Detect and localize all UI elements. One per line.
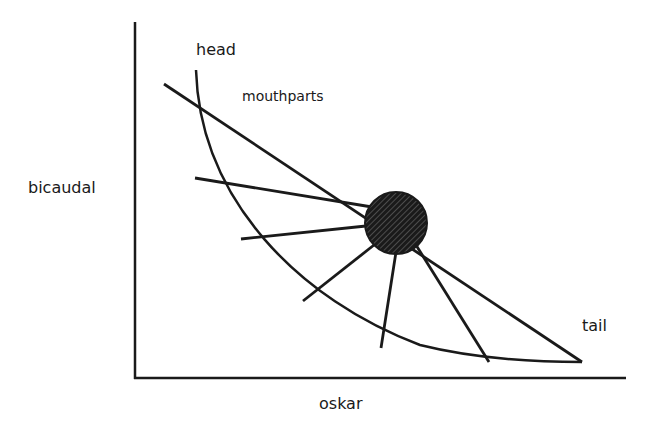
center-node bbox=[365, 192, 427, 254]
mouthparts-label: mouthparts bbox=[242, 89, 323, 103]
head-label: head bbox=[196, 42, 236, 58]
spoke-line-5 bbox=[416, 245, 489, 362]
x-axis-label: oskar bbox=[319, 396, 363, 412]
diagram-canvas bbox=[0, 0, 662, 436]
spoke-line-1 bbox=[195, 178, 372, 207]
tail-label: tail bbox=[582, 318, 607, 334]
y-axis-label: bicaudal bbox=[28, 180, 96, 196]
spoke-line-3 bbox=[303, 245, 374, 301]
